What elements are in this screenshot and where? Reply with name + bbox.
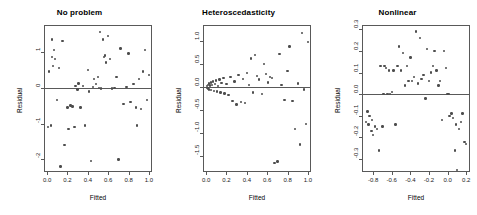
y-axis-tick bbox=[359, 159, 362, 160]
x-axis-tick bbox=[247, 172, 248, 175]
y-axis-title-heteroscedasticity: Residual bbox=[175, 87, 182, 112]
plot-frame-heteroscedasticity bbox=[203, 25, 311, 172]
y-axis-tick bbox=[200, 133, 203, 134]
x-axis-tick bbox=[448, 172, 449, 175]
x-axis-tick bbox=[226, 172, 227, 175]
x-axis-tick bbox=[149, 172, 150, 175]
x-axis-tick bbox=[308, 172, 309, 175]
x-axis-tick-label: 1.0 bbox=[145, 177, 153, 183]
x-axis-tick-label: -0.2 bbox=[424, 177, 434, 183]
x-axis-tick bbox=[288, 172, 289, 175]
x-axis-tick-label: 0.0 bbox=[443, 177, 451, 183]
x-axis-tick bbox=[410, 172, 411, 175]
x-axis-tick-label: 0.4 bbox=[84, 177, 92, 183]
plot-frame-nonlinear bbox=[362, 25, 470, 172]
x-axis-tick bbox=[466, 172, 467, 175]
x-axis-tick bbox=[47, 172, 48, 175]
x-axis-tick-label: -0.6 bbox=[387, 177, 397, 183]
x-axis-tick-label: 0.6 bbox=[263, 177, 271, 183]
x-axis-tick-label: 0.6 bbox=[104, 177, 112, 183]
y-axis-tick bbox=[359, 73, 362, 74]
y-axis-tick bbox=[41, 88, 44, 89]
x-axis-tick-label: 0.8 bbox=[124, 177, 132, 183]
x-axis-tick bbox=[88, 172, 89, 175]
y-axis-tick bbox=[359, 51, 362, 52]
x-axis-tick-label: 0.0 bbox=[202, 177, 210, 183]
x-axis-tick-label: 0.4 bbox=[243, 177, 251, 183]
x-axis-tick bbox=[392, 172, 393, 175]
x-axis-tick-label: 0.2 bbox=[222, 177, 230, 183]
x-axis-tick-label: 1.0 bbox=[304, 177, 312, 183]
y-axis-tick bbox=[200, 41, 203, 42]
y-axis-tick bbox=[200, 87, 203, 88]
panel-title-no-problem: No problem bbox=[0, 8, 159, 17]
y-axis-tick bbox=[41, 159, 44, 160]
y-axis-tick bbox=[200, 64, 203, 65]
x-axis-tick bbox=[108, 172, 109, 175]
x-axis-tick bbox=[129, 172, 130, 175]
x-axis-tick bbox=[373, 172, 374, 175]
panel-no-problem: No problem Fitted Residual 0.00.20.40.60… bbox=[0, 0, 159, 215]
y-axis-tick bbox=[359, 137, 362, 138]
plot-frame-no-problem bbox=[44, 25, 152, 172]
y-axis-title-nonlinear: Residual bbox=[334, 87, 341, 112]
residual-plots-figure: No problem Fitted Residual 0.00.20.40.60… bbox=[0, 0, 477, 215]
x-axis-tick-label: -0.4 bbox=[405, 177, 415, 183]
y-axis-tick bbox=[41, 124, 44, 125]
y-axis-tick bbox=[359, 116, 362, 117]
y-axis-tick bbox=[359, 29, 362, 30]
x-axis-tick bbox=[67, 172, 68, 175]
y-axis-title-no-problem: Residual bbox=[16, 87, 23, 112]
x-axis-tick-label: -0.8 bbox=[368, 177, 378, 183]
x-axis-tick-label: 0.8 bbox=[283, 177, 291, 183]
x-axis-title-heteroscedasticity: Fitted bbox=[203, 194, 311, 201]
x-axis-title-nonlinear: Fitted bbox=[362, 194, 470, 201]
x-axis-title-no-problem: Fitted bbox=[44, 194, 152, 201]
x-axis-tick-label: 0.2 bbox=[63, 177, 71, 183]
y-axis-tick bbox=[41, 52, 44, 53]
x-axis-tick bbox=[267, 172, 268, 175]
y-axis-tick bbox=[200, 110, 203, 111]
panel-title-nonlinear: Nonlinear bbox=[318, 8, 477, 17]
x-axis-tick-label: 0.0 bbox=[43, 177, 51, 183]
y-axis-tick bbox=[359, 94, 362, 95]
x-axis-tick bbox=[429, 172, 430, 175]
panel-heteroscedasticity: Heteroscedasticity Fitted Residual 0.00.… bbox=[159, 0, 318, 215]
panel-title-heteroscedasticity: Heteroscedasticity bbox=[159, 8, 318, 17]
x-axis-tick-label: 0.2 bbox=[462, 177, 470, 183]
panel-nonlinear: Nonlinear Fitted Residual -0.8-0.6-0.4-0… bbox=[318, 0, 477, 215]
x-axis-tick bbox=[206, 172, 207, 175]
y-axis-tick bbox=[200, 156, 203, 157]
